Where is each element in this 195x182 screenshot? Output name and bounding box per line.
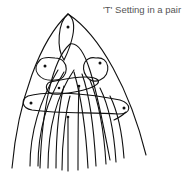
pin-center-low: [67, 116, 70, 119]
tail: [114, 112, 126, 120]
pin-center-right: [78, 85, 81, 88]
lace-diagram: [0, 0, 195, 182]
outer-arch-right: [68, 14, 146, 155]
pin-center-left: [58, 87, 61, 90]
pin-top: [67, 26, 70, 29]
pin-right: [99, 62, 102, 65]
pin-left: [44, 65, 47, 68]
pin-far-right: [123, 107, 126, 110]
pin-far-left: [30, 102, 33, 105]
